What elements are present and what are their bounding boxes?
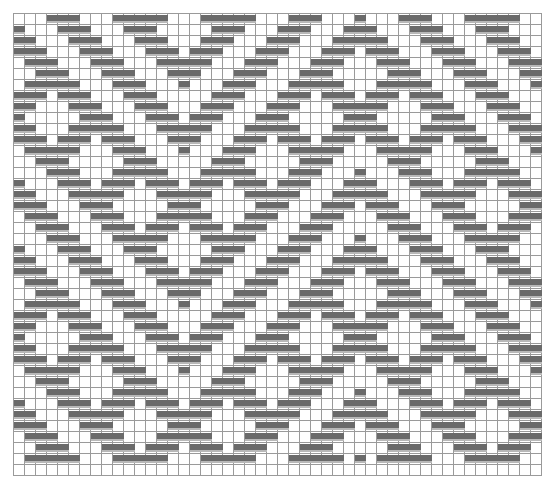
grid-cell (58, 256, 69, 267)
grid-cell (157, 377, 168, 388)
grid-cell (47, 179, 58, 190)
grid-cell (476, 91, 487, 102)
grid-cell (113, 135, 124, 146)
grid-cell (344, 465, 355, 476)
grid-cell (322, 355, 333, 366)
grid-cell (102, 179, 113, 190)
grid-cell (14, 388, 25, 399)
grid-cell (289, 278, 300, 289)
grid-cell (91, 421, 102, 432)
grid-cell (69, 311, 80, 322)
grid-cell (91, 355, 102, 366)
grid-cell (344, 443, 355, 454)
grid-cell (300, 135, 311, 146)
grid-cell (443, 344, 454, 355)
grid-cell (432, 344, 443, 355)
grid-cell (333, 58, 344, 69)
grid-cell (14, 399, 25, 410)
grid-cell (91, 388, 102, 399)
grid-cell (190, 190, 201, 201)
grid-cell (179, 179, 190, 190)
grid-cell (498, 234, 509, 245)
grid-cell (487, 80, 498, 91)
grid-cell (520, 201, 531, 212)
grid-cell (344, 135, 355, 146)
grid-cell (58, 124, 69, 135)
grid-cell (300, 256, 311, 267)
grid-cell (47, 300, 58, 311)
grid-cell (498, 157, 509, 168)
grid-cell (25, 267, 36, 278)
grid-cell (157, 366, 168, 377)
grid-cell (520, 69, 531, 80)
grid-cell (234, 256, 245, 267)
grid-cell (333, 212, 344, 223)
grid-cell (388, 58, 399, 69)
grid-cell (377, 443, 388, 454)
grid-cell (487, 322, 498, 333)
grid-cell (399, 366, 410, 377)
grid-cell (58, 267, 69, 278)
grid-cell (58, 421, 69, 432)
grid-cell (91, 256, 102, 267)
grid-cell (509, 124, 520, 135)
grid-cell (124, 113, 135, 124)
grid-cell (14, 179, 25, 190)
grid-cell (311, 179, 322, 190)
grid-cell (14, 355, 25, 366)
grid-cell (278, 14, 289, 25)
grid-cell (410, 399, 421, 410)
grid-cell (322, 322, 333, 333)
grid-cell (201, 47, 212, 58)
grid-cell (421, 102, 432, 113)
grid-cell (432, 58, 443, 69)
grid-cell (25, 58, 36, 69)
grid-cell (256, 344, 267, 355)
grid-cell (476, 58, 487, 69)
grid-cell (355, 179, 366, 190)
grid-cell (58, 58, 69, 69)
grid-cell (311, 333, 322, 344)
grid-cell (113, 223, 124, 234)
grid-cell (47, 36, 58, 47)
grid-cell (223, 421, 234, 432)
grid-cell (223, 69, 234, 80)
grid-cell (201, 69, 212, 80)
grid-cell (58, 135, 69, 146)
grid-cell (201, 355, 212, 366)
grid-cell (234, 344, 245, 355)
grid-cell (432, 311, 443, 322)
grid-cell (454, 256, 465, 267)
grid-cell (454, 91, 465, 102)
grid-cell (223, 234, 234, 245)
grid-cell (366, 102, 377, 113)
grid-cell (146, 300, 157, 311)
grid-cell (47, 410, 58, 421)
grid-cell (212, 410, 223, 421)
grid-cell (234, 47, 245, 58)
grid-cell (289, 454, 300, 465)
grid-cell (454, 36, 465, 47)
grid-cell (124, 377, 135, 388)
grid-cell (25, 289, 36, 300)
grid-cell (289, 377, 300, 388)
grid-cell (146, 146, 157, 157)
grid-cell (201, 256, 212, 267)
grid-cell (289, 234, 300, 245)
grid-cell (168, 267, 179, 278)
grid-cell (212, 465, 223, 476)
grid-cell (157, 190, 168, 201)
grid-cell (498, 102, 509, 113)
grid-cell (432, 168, 443, 179)
grid-cell (377, 399, 388, 410)
grid-cell (102, 322, 113, 333)
grid-cell (465, 278, 476, 289)
grid-cell (333, 366, 344, 377)
grid-cell (355, 322, 366, 333)
grid-cell (344, 80, 355, 91)
grid-cell (146, 47, 157, 58)
grid-cell (465, 146, 476, 157)
grid-cell (223, 311, 234, 322)
grid-cell (69, 14, 80, 25)
grid-cell (168, 80, 179, 91)
